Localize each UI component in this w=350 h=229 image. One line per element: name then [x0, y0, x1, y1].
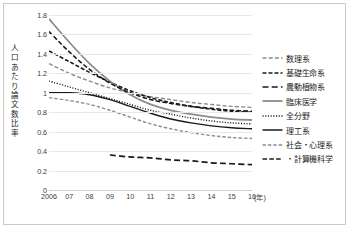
gridline [49, 132, 252, 133]
legend-label: 臨床医学 [286, 96, 317, 107]
y-tick-label: 0.4 [37, 147, 47, 156]
legend-item[interactable]: 全分野 [262, 109, 350, 123]
gridline [49, 151, 252, 152]
y-tick-label: 1.4 [37, 49, 47, 58]
gridline [49, 15, 252, 16]
chart-frame: 人口あたり論文数比率 00.20.40.60.811.21.41.61.8 20… [3, 3, 346, 225]
x-tick-label: 08 [86, 192, 94, 201]
legend-line-icon [262, 96, 283, 106]
x-tick-label: 15 [228, 192, 236, 201]
x-tick-label: 07 [65, 192, 73, 201]
x-tick-label: 2006 [41, 192, 57, 201]
legend-item[interactable]: 基礎生命系 [262, 65, 350, 79]
legend-line-icon [262, 140, 283, 150]
x-tick-label: 12 [167, 192, 175, 201]
gridline [49, 34, 252, 35]
legend-label: 基礎生命系 [286, 67, 325, 78]
y-tick-label: 1.2 [37, 69, 47, 78]
legend-item[interactable]: 社会・心理系 [262, 137, 350, 151]
legend-item[interactable]: ・計算機科学 [262, 152, 350, 166]
legend-label: 理工系 [286, 125, 309, 136]
x-axis-tick-labels: 200607080910111213141516 [49, 192, 252, 206]
legend-line-icon [262, 154, 283, 164]
plot-area [49, 15, 252, 190]
gridline [49, 190, 252, 191]
y-tick-label: 0.6 [37, 127, 47, 136]
y-tick-label: 0.8 [37, 108, 47, 117]
legend-label: 農動植物系 [286, 81, 325, 92]
x-tick-label: 13 [187, 192, 195, 201]
legend-item[interactable]: 数理系 [262, 51, 350, 65]
legend-line-icon [262, 82, 283, 92]
x-tick-label: 10 [126, 192, 134, 201]
y-axis-tick-labels: 00.20.40.60.811.21.41.61.8 [18, 15, 47, 190]
legend-item[interactable]: 臨床医学 [262, 94, 350, 108]
legend-line-icon [262, 125, 283, 135]
y-tick-label: 1 [43, 88, 47, 97]
gridline [49, 54, 252, 55]
gridline [49, 171, 252, 172]
y-tick-label: 1.6 [37, 30, 47, 39]
legend-line-icon [262, 53, 283, 63]
chart-legend: 数理系基礎生命系農動植物系臨床医学全分野理工系社会・心理系・計算機科学 [262, 51, 350, 166]
x-tick-label: 09 [106, 192, 114, 201]
y-tick-label: 1.8 [37, 11, 47, 20]
gridlines [49, 15, 252, 190]
legend-label: 全分野 [286, 110, 309, 121]
y-tick-label: 0.2 [37, 166, 47, 175]
x-axis-unit-label: (年) [254, 192, 266, 202]
x-tick-label: 14 [207, 192, 215, 201]
x-tick-label: 11 [147, 192, 154, 201]
legend-item[interactable]: 理工系 [262, 123, 350, 137]
legend-line-icon [262, 68, 283, 78]
legend-label: 数理系 [286, 53, 309, 64]
legend-label: 社会・心理系 [286, 139, 333, 150]
legend-line-icon [262, 111, 283, 121]
gridline [49, 93, 252, 94]
legend-item[interactable]: 農動植物系 [262, 80, 350, 94]
gridline [49, 73, 252, 74]
legend-label: ・計算機科学 [286, 153, 333, 164]
gridline [49, 112, 252, 113]
